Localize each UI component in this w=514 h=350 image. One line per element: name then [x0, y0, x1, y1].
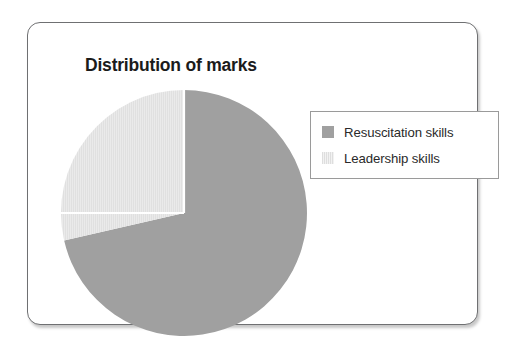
- screenshot-root: Distribution of marks: [0, 0, 514, 350]
- pie-chart: [61, 90, 307, 336]
- striped-light-swatch-icon: [322, 152, 334, 164]
- chart-card: Distribution of marks: [27, 22, 478, 325]
- legend: Resuscitation skills Leadership skills: [310, 111, 499, 179]
- legend-item-resuscitation-skills[interactable]: Resuscitation skills: [322, 119, 498, 145]
- legend-item-label: Resuscitation skills: [344, 125, 453, 140]
- pie-chart-svg: [61, 90, 307, 336]
- legend-item-label: Leadership skills: [344, 151, 440, 166]
- legend-item-leadership-skills[interactable]: Leadership skills: [322, 145, 498, 171]
- solid-gray-swatch-icon: [322, 126, 334, 138]
- page-title: Distribution of marks: [85, 55, 257, 76]
